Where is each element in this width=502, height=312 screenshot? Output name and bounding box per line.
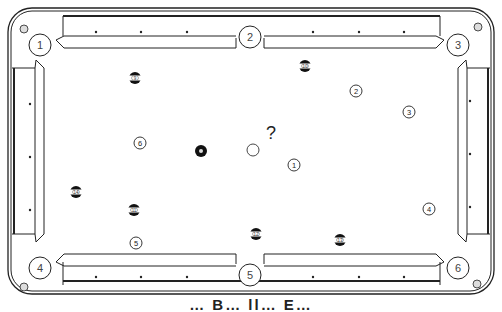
striped-ball-10: 10 <box>299 60 311 72</box>
pocket-4: 4 <box>29 257 51 279</box>
solid-ball-5: 5 <box>130 237 142 249</box>
pocket-label: 5 <box>247 269 253 281</box>
solid-ball-3: 3 <box>403 106 415 118</box>
eight-ball <box>195 145 207 157</box>
striped-ball-9: 9 <box>129 72 141 84</box>
balls: 12345691014111213? <box>70 60 435 249</box>
striped-ball-13: 13 <box>334 234 346 246</box>
solid-ball-6: 6 <box>134 137 146 149</box>
svg-text:13: 13 <box>337 238 343 243</box>
pocket-label: 6 <box>455 262 461 274</box>
striped-ball-11: 11 <box>128 204 140 216</box>
cue-ball <box>247 144 259 156</box>
pocket-2: 2 <box>239 26 261 48</box>
pocket-1: 1 <box>29 34 51 56</box>
svg-text:3: 3 <box>407 108 411 117</box>
solid-ball-2: 2 <box>350 85 362 97</box>
svg-text:11: 11 <box>132 208 137 213</box>
svg-text:4: 4 <box>427 205 431 214</box>
pocket-5: 5 <box>239 264 261 286</box>
svg-text:2: 2 <box>354 87 358 96</box>
svg-text:14: 14 <box>73 190 79 195</box>
question-mark: ? <box>266 123 276 143</box>
corner-screws <box>20 23 482 291</box>
solid-ball-1: 1 <box>288 159 300 171</box>
pool-table-diagram: 123456 12345691014111213? <box>0 0 502 312</box>
pockets: 123456 <box>29 26 469 286</box>
svg-text:5: 5 <box>134 239 138 248</box>
striped-ball-12: 12 <box>250 228 262 240</box>
diagram-caption: … B… ll… E… <box>0 296 502 312</box>
pocket-3: 3 <box>447 34 469 56</box>
pocket-label: 2 <box>247 31 253 43</box>
pocket-label: 1 <box>37 39 43 51</box>
pocket-label: 4 <box>37 262 43 274</box>
pocket-6: 6 <box>447 257 469 279</box>
svg-text:1: 1 <box>292 161 296 170</box>
solid-ball-4: 4 <box>423 203 435 215</box>
striped-ball-14: 14 <box>70 186 82 198</box>
svg-text:6: 6 <box>138 139 142 148</box>
svg-text:10: 10 <box>302 64 308 69</box>
pocket-label: 3 <box>455 39 461 51</box>
svg-text:12: 12 <box>253 232 259 237</box>
